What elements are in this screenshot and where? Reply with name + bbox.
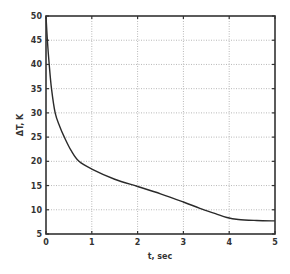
axis-ticks — [46, 16, 275, 234]
grid-lines — [46, 16, 275, 234]
y-tick-label: 40 — [31, 60, 43, 69]
y-tick-label: 5 — [36, 230, 42, 239]
y-tick-label: 35 — [31, 85, 43, 94]
y-tick-label: 25 — [31, 133, 43, 142]
x-tick-label: 2 — [135, 238, 141, 247]
x-tick-label: 3 — [181, 238, 187, 247]
y-tick-label: 10 — [31, 206, 43, 215]
x-tick-label: 0 — [43, 238, 49, 247]
x-tick-label: 5 — [272, 238, 278, 247]
x-axis-label: t, sec — [148, 252, 173, 261]
y-tick-label: 50 — [31, 12, 43, 21]
y-tick-label: 20 — [31, 157, 43, 166]
y-tick-labels: 5101520253035404550 — [31, 12, 43, 239]
line-chart: 012345 5101520253035404550 t, sec ΔT, K — [0, 0, 290, 274]
x-tick-label: 4 — [226, 238, 232, 247]
y-axis-label: ΔT, K — [16, 113, 25, 136]
y-tick-label: 45 — [31, 36, 43, 45]
y-tick-label: 15 — [31, 182, 43, 191]
x-tick-label: 1 — [89, 238, 95, 247]
y-tick-label: 30 — [31, 109, 43, 118]
plot-frame — [46, 16, 275, 234]
data-curve — [46, 16, 275, 221]
x-tick-labels: 012345 — [43, 238, 278, 247]
